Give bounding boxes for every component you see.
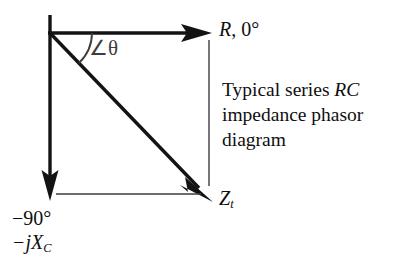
caption-line1-pre: Typical series xyxy=(222,79,334,100)
vector-group xyxy=(42,15,214,202)
reactance-prefix: −j xyxy=(12,231,31,253)
total-impedance-vector-line xyxy=(50,33,199,188)
reactance-subscript: C xyxy=(43,241,51,255)
negative-ninety-degree-label: −90° xyxy=(12,208,51,228)
caption-line1-italic: RC xyxy=(334,79,359,100)
total-impedance-label: Zt xyxy=(219,188,234,211)
reactance-axis-label: −jXC xyxy=(12,232,52,255)
reactance-symbol: X xyxy=(31,231,43,253)
total-impedance-subscript: t xyxy=(230,197,233,211)
resistance-symbol: R xyxy=(219,18,231,40)
resistance-angle: , 0° xyxy=(231,18,259,40)
phasor-diagram-figure: R, 0° ∠θ Zt −90° −jXC Typical series RCi… xyxy=(0,0,399,260)
angle-theta-label: ∠θ xyxy=(89,38,118,59)
total-impedance-arrowhead xyxy=(180,177,213,202)
figure-caption: Typical series RCimpedance phasordiagram xyxy=(222,78,397,153)
caption-line3: diagram xyxy=(222,129,286,150)
resistance-axis-label: R, 0° xyxy=(219,19,259,39)
caption-line2: impedance phasor xyxy=(222,104,363,125)
total-impedance-symbol: Z xyxy=(219,187,230,209)
